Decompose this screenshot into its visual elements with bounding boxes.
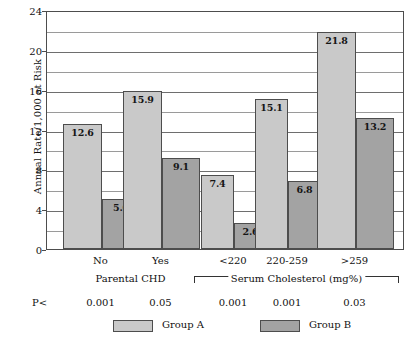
bar-group-a[interactable]: 15.9 [123, 91, 162, 249]
p-value: 0.03 [343, 297, 365, 308]
bar-group-a[interactable]: 15.1 [255, 99, 288, 249]
chart-figure: Annual Rate/1,000 at Risk 04812162024 12… [0, 0, 413, 340]
x-category-label: 220-259 [266, 255, 308, 266]
legend-label-group-b: Group B [309, 319, 351, 330]
x-category-label: <220 [219, 255, 246, 266]
x-category-label: Yes [152, 255, 169, 266]
bar-group-b[interactable]: 9.1 [162, 158, 200, 249]
y-tick-label: 12 [2, 125, 42, 136]
x-category-label: >259 [341, 255, 368, 266]
bar-group-a[interactable]: 7.4 [201, 175, 234, 249]
y-axis-ticks: 04812162024 [0, 11, 42, 250]
p-value: 0.001 [219, 297, 248, 308]
legend-swatch-group-b [260, 320, 300, 332]
legend-label-group-a: Group A [162, 319, 204, 330]
p-value: 0.05 [149, 297, 171, 308]
group-label: Serum Cholesterol (mg%) [228, 273, 365, 284]
p-row-label: P< [32, 297, 47, 308]
bar-group-b[interactable]: 13.2 [356, 118, 394, 249]
y-tick-mark [42, 250, 46, 251]
y-tick-label: 20 [2, 45, 42, 56]
bar-group-a[interactable]: 12.6 [63, 124, 102, 249]
group-label: Parental CHD [92, 273, 168, 284]
p-value: 0.001 [273, 297, 302, 308]
bar-value-label: 21.8 [318, 35, 355, 46]
bar-value-label: 15.9 [124, 94, 161, 105]
y-tick-label: 24 [2, 6, 42, 17]
bar-value-label: 9.1 [163, 161, 199, 172]
bar-value-label: 15.1 [256, 102, 287, 113]
bar-value-label: 13.2 [357, 121, 393, 132]
bar-value-label: 7.4 [202, 178, 233, 189]
p-value: 0.001 [86, 297, 115, 308]
y-tick-label: 16 [2, 85, 42, 96]
bar-value-label: 12.6 [64, 127, 101, 138]
y-tick-label: 0 [2, 245, 42, 256]
x-category-label: No [93, 255, 108, 266]
legend-swatch-group-a [113, 320, 153, 332]
bar-value-label: 6.8 [289, 184, 320, 195]
y-tick-label: 8 [2, 165, 42, 176]
bar-group-a[interactable]: 21.8 [317, 32, 356, 249]
plot-area: 12.65.015.99.17.42.615.16.821.813.2 [46, 11, 404, 250]
y-tick-label: 4 [2, 205, 42, 216]
